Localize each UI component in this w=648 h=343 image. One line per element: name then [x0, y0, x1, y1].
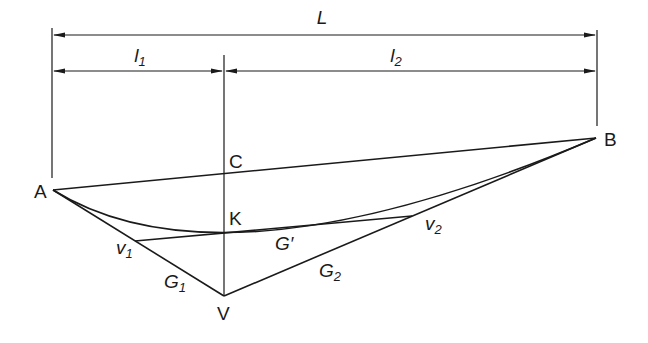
- grade-line-g1: [53, 190, 224, 296]
- point-b: B: [604, 129, 617, 150]
- grade-g2: G2: [319, 260, 342, 284]
- label-l1: l1: [134, 45, 145, 69]
- tangent-line-gprime: [135, 216, 412, 241]
- vertical-curve: [53, 138, 596, 233]
- grade-g1: G1: [164, 271, 186, 295]
- chord-ab: [53, 138, 596, 190]
- point-k: K: [229, 208, 242, 229]
- grade-line-g2: [224, 138, 596, 296]
- label-l2: l2: [390, 45, 402, 69]
- vertical-curve-diagram: L l1 l2 A B C K V v1 v2 G1 G2 G′: [0, 0, 648, 343]
- point-v: V: [217, 303, 230, 324]
- point-v2: v2: [425, 213, 443, 237]
- point-v1: v1: [116, 237, 133, 261]
- grade-gprime: G′: [275, 233, 295, 254]
- label-l: L: [317, 7, 328, 28]
- point-a: A: [34, 181, 47, 202]
- point-c: C: [229, 151, 243, 172]
